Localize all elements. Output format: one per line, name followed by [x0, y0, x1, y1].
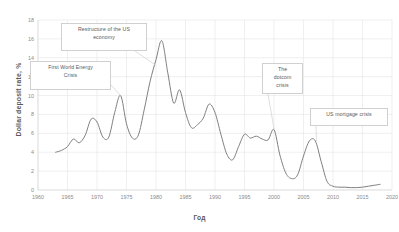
annotation-line: economy	[65, 34, 143, 42]
annotation-line: US mortgage crisis	[314, 111, 384, 119]
svg-text:16: 16	[28, 36, 34, 42]
svg-text:18: 18	[28, 17, 34, 23]
svg-text:2000: 2000	[268, 194, 280, 200]
svg-text:2005: 2005	[298, 194, 310, 200]
svg-text:0: 0	[31, 187, 34, 193]
annotation-dotcom-crisis: Thedotcomcrisis	[262, 63, 303, 94]
svg-text:10: 10	[28, 93, 34, 99]
annotation-line: The	[266, 66, 299, 74]
annotation-line: dotcom	[266, 74, 299, 82]
y-tick-labels: 024681012141618	[28, 17, 34, 193]
svg-text:4: 4	[31, 149, 34, 155]
annotation-restructure-us-economy: Restructure of the USeconomy	[61, 23, 147, 51]
annotation-us-mortgage-crisis: US mortgage crisis	[310, 108, 388, 126]
annotation-line: Crisis	[34, 72, 107, 80]
svg-text:2010: 2010	[327, 194, 339, 200]
chart-container: Dollar deposit rate, % Год 0246810121416…	[0, 0, 399, 232]
svg-text:2015: 2015	[357, 194, 369, 200]
svg-text:1960: 1960	[32, 194, 44, 200]
svg-text:2020: 2020	[386, 194, 398, 200]
annotation-line: Restructure of the US	[65, 26, 143, 34]
svg-text:14: 14	[28, 55, 34, 61]
x-tick-labels: 1960196519701975198019851990199520002005…	[32, 194, 398, 200]
svg-text:6: 6	[31, 130, 34, 136]
svg-text:1985: 1985	[180, 194, 192, 200]
svg-text:1970: 1970	[91, 194, 103, 200]
svg-text:8: 8	[31, 111, 34, 117]
annotation-line: First World Energy	[34, 64, 107, 72]
svg-text:1995: 1995	[239, 194, 251, 200]
annotation-line: crisis	[266, 82, 299, 90]
svg-text:1990: 1990	[209, 194, 221, 200]
svg-text:1980: 1980	[150, 194, 162, 200]
svg-text:2: 2	[31, 168, 34, 174]
svg-text:1975: 1975	[121, 194, 133, 200]
annotation-first-world-energy-crisis: First World EnergyCrisis	[30, 61, 111, 90]
svg-text:1965: 1965	[62, 194, 74, 200]
